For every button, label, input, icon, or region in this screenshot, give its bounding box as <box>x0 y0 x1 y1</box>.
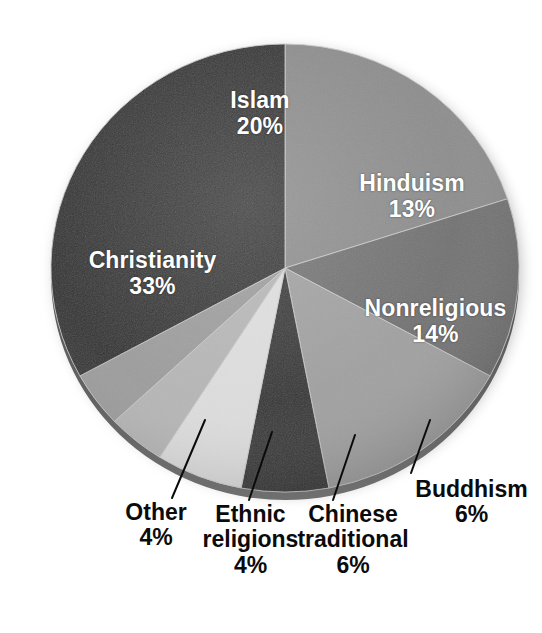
callout-label-chinese-traditional: Chinese traditional 6% <box>283 502 423 578</box>
pie-chart-figure: Islam 20%Hinduism 13%Nonreligious 14%Bud… <box>0 0 542 633</box>
callout-label-chinese-traditional-name: Chinese <box>283 502 423 527</box>
callout-label-chinese-traditional-name2: traditional <box>283 527 423 552</box>
pie-slice-group: Islam 20%Hinduism 13%Nonreligious 14%Bud… <box>51 44 519 492</box>
callout-label-buddhism: Buddhism 6% <box>404 477 539 528</box>
callout-label-chinese-traditional-value: 6% <box>283 553 423 578</box>
callout-label-buddhism-value: 6% <box>404 502 539 527</box>
callout-label-buddhism-name: Buddhism <box>404 477 539 502</box>
